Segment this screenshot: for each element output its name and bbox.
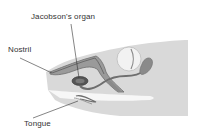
label-jacobsons-organ: Jacobson's organ bbox=[31, 13, 95, 21]
jacobsons-organ-core bbox=[76, 79, 85, 83]
snake-head-diagram bbox=[0, 0, 200, 136]
label-tongue: Tongue bbox=[24, 120, 51, 128]
leader-tongue bbox=[33, 101, 78, 118]
leader-nostril bbox=[20, 58, 52, 73]
head-silhouette bbox=[46, 40, 188, 116]
label-nostril: Nostril bbox=[8, 46, 31, 54]
eye bbox=[117, 47, 141, 71]
